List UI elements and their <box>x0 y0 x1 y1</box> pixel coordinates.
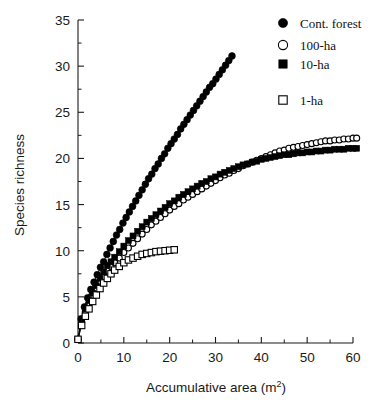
x-tick-label: 10 <box>116 350 131 365</box>
data-point <box>82 313 88 319</box>
data-point <box>107 245 114 252</box>
data-point <box>75 336 81 342</box>
legend-marker-cont-forest <box>278 18 287 27</box>
data-point <box>93 292 99 298</box>
data-point <box>116 226 123 233</box>
data-point <box>229 53 236 60</box>
data-point <box>89 298 95 304</box>
x-tick-label: 30 <box>208 350 223 365</box>
y-tick-label: 5 <box>62 290 70 305</box>
y-tick-label: 35 <box>55 13 70 28</box>
x-tick-label: 20 <box>162 350 177 365</box>
legend-label: Cont. forest <box>300 16 362 31</box>
y-tick-label: 15 <box>55 198 70 213</box>
data-point <box>116 249 122 255</box>
data-point <box>103 251 110 258</box>
x-tick-label: 50 <box>300 350 315 365</box>
data-point <box>86 306 92 312</box>
x-tick-label: 60 <box>345 350 360 365</box>
y-tick-label: 25 <box>55 105 70 120</box>
data-point <box>110 238 117 245</box>
data-point <box>354 145 360 151</box>
y-tick-label: 30 <box>55 59 70 74</box>
y-tick-label: 0 <box>62 336 70 351</box>
legend-marker-10-ha <box>279 60 287 68</box>
y-tick-label: 20 <box>55 151 70 166</box>
x-axis-title-tail: ) <box>282 380 287 395</box>
figure-container: 05101520253035 0102030405060 Species ric… <box>0 0 382 406</box>
x-tick-label: 40 <box>254 350 269 365</box>
data-point <box>121 243 127 249</box>
y-axis-title: Species richness <box>12 134 27 236</box>
legend-marker-1-ha <box>279 96 287 104</box>
legend-label: 100-ha <box>300 38 336 53</box>
legend-marker-100-ha <box>278 40 287 49</box>
x-axis-title-base: Accumulative area (m <box>146 380 277 395</box>
data-point <box>171 247 177 253</box>
data-point <box>78 322 84 328</box>
x-tick-label: 0 <box>74 350 82 365</box>
data-point <box>101 269 107 275</box>
legend-label: 1-ha <box>300 93 323 108</box>
legend-label: 10-ha <box>300 57 330 72</box>
y-tick-label: 10 <box>55 244 70 259</box>
x-axis-title: Accumulative area (m2) <box>146 379 286 395</box>
data-point <box>112 254 118 260</box>
species-accumulation-chart: 05101520253035 0102030405060 Species ric… <box>0 0 382 406</box>
data-point <box>354 135 360 141</box>
